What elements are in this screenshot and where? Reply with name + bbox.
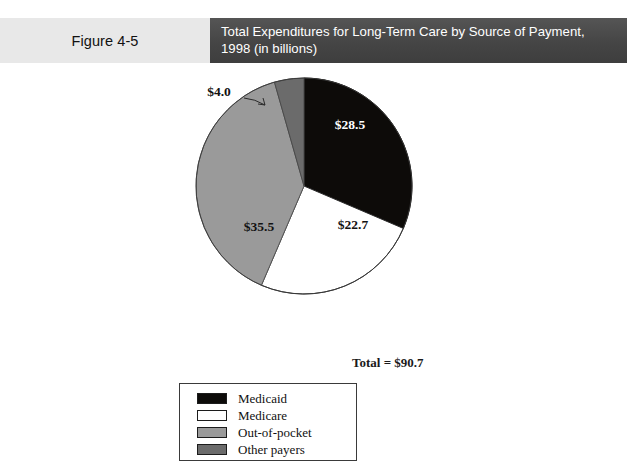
chart-legend: Medicaid Medicare Out-of-pocket Other pa…	[179, 383, 357, 461]
pie-chart: $28.5 $22.7 $35.5 $4.0	[0, 63, 627, 408]
legend-item-medicare[interactable]: Medicare	[197, 407, 356, 424]
legend-label-medicaid: Medicaid	[238, 391, 287, 407]
figure-title-line-2: 1998 (in billions)	[221, 41, 617, 58]
legend-swatch-medicare	[197, 410, 227, 421]
total-label: Total = $90.7	[352, 355, 424, 371]
slice-label-medicare: $22.7	[338, 217, 369, 232]
slice-label-out-of-pocket: $35.5	[244, 219, 275, 234]
legend-item-other-payers[interactable]: Other payers	[197, 441, 356, 458]
legend-item-out-of-pocket[interactable]: Out-of-pocket	[197, 424, 356, 441]
chart-area: $28.5 $22.7 $35.5 $4.0 Total = $90.7 Med…	[0, 63, 627, 408]
figure-number-label: Figure 4-5	[71, 33, 138, 49]
legend-label-out-of-pocket: Out-of-pocket	[238, 425, 312, 441]
slice-label-medicaid: $28.5	[335, 117, 366, 132]
legend-label-medicare: Medicare	[238, 408, 287, 424]
legend-swatch-medicaid	[197, 393, 227, 404]
legend-item-medicaid[interactable]: Medicaid	[197, 390, 356, 407]
slice-label-other-payers: $4.0	[207, 84, 231, 99]
page-top-edge	[0, 0, 627, 3]
figure-number-block: Figure 4-5	[0, 18, 210, 63]
figure-title-block: Total Expenditures for Long-Term Care by…	[210, 18, 627, 63]
legend-swatch-out-of-pocket	[197, 427, 227, 438]
figure-title-line-1: Total Expenditures for Long-Term Care by…	[221, 24, 617, 41]
legend-swatch-other-payers	[197, 444, 227, 455]
figure-header-bar: Figure 4-5 Total Expenditures for Long-T…	[0, 18, 627, 63]
legend-label-other-payers: Other payers	[238, 442, 305, 458]
